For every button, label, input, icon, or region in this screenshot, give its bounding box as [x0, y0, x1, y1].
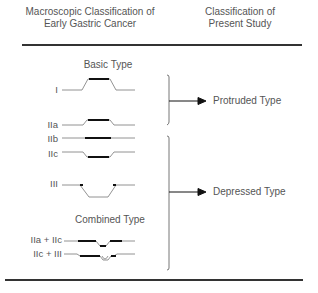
lesion-profile-diagram: [0, 0, 318, 293]
class-depressed-type: Depressed Type: [213, 186, 286, 197]
class-protruded-type: Protruded Type: [213, 95, 281, 106]
bracket-group: [167, 75, 169, 270]
